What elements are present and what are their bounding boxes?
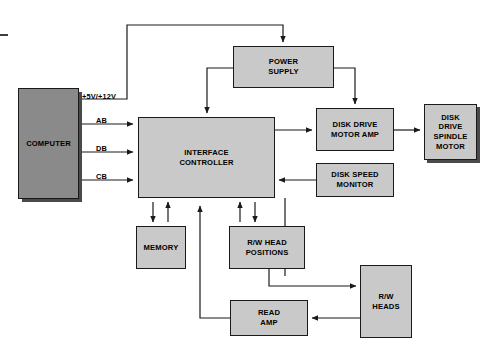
wire-label-data-bus: DB: [96, 144, 107, 153]
block-read-amp-label: READ AMP: [258, 308, 280, 327]
block-power-supply-label: POWER SUPPLY: [268, 57, 299, 76]
block-disk-drive-spindle-motor[interactable]: DISK DRIVE SPINDLE MOTOR: [424, 104, 477, 160]
block-rw-head-positions-label: R/W HEAD POSITIONS: [246, 238, 289, 257]
spindle-motor-shadow-right: [477, 107, 480, 163]
block-interface-controller[interactable]: INTERFACE CONTROLLER: [138, 117, 275, 198]
block-memory-label: MEMORY: [144, 243, 179, 253]
block-disk-drive-spindle-motor-label: DISK DRIVE SPINDLE MOTOR: [434, 113, 468, 152]
block-diagram-canvas: COMPUTER INTERFACE CONTROLLER POWER SUPP…: [0, 0, 498, 355]
wire-label-control-bus: CB: [96, 172, 107, 181]
wire-psu-to-interface: [207, 68, 233, 113]
wire-label-address-bus: AB: [96, 116, 107, 125]
spindle-motor-shadow: [427, 160, 480, 163]
computer-shadow: [22, 199, 82, 202]
block-rw-heads[interactable]: R/W HEADS: [360, 265, 412, 338]
computer-shadow-right: [79, 92, 82, 202]
block-interface-controller-label: INTERFACE CONTROLLER: [179, 148, 233, 167]
edge-tick-mark: [0, 34, 8, 36]
wire-psu-to-motor-amp: [334, 68, 355, 104]
block-computer-label: COMPUTER: [26, 139, 71, 149]
block-read-amp[interactable]: READ AMP: [230, 300, 308, 336]
wire-label-power-rail: +5V/+12V: [82, 92, 116, 101]
block-rw-heads-label: R/W HEADS: [372, 292, 399, 311]
block-computer[interactable]: COMPUTER: [18, 88, 79, 199]
block-disk-speed-monitor-label: DISK SPEED MONITOR: [331, 170, 379, 189]
block-disk-drive-motor-amp-label: DISK DRIVE MOTOR AMP: [331, 120, 379, 139]
block-power-supply[interactable]: POWER SUPPLY: [233, 46, 334, 88]
block-memory[interactable]: MEMORY: [136, 226, 186, 269]
block-rw-head-positions[interactable]: R/W HEAD POSITIONS: [229, 226, 305, 269]
block-disk-speed-monitor[interactable]: DISK SPEED MONITOR: [316, 163, 394, 197]
wire-head-positions-to-rw-heads: [269, 269, 356, 286]
block-disk-drive-motor-amp[interactable]: DISK DRIVE MOTOR AMP: [316, 108, 394, 151]
wire-read-amp-to-interface: [200, 206, 230, 318]
